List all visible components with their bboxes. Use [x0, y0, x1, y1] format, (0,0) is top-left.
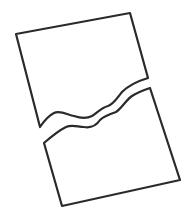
torn-paper-illustration: Torn page: [0, 0, 195, 218]
torn-paper-icon: [0, 0, 195, 218]
